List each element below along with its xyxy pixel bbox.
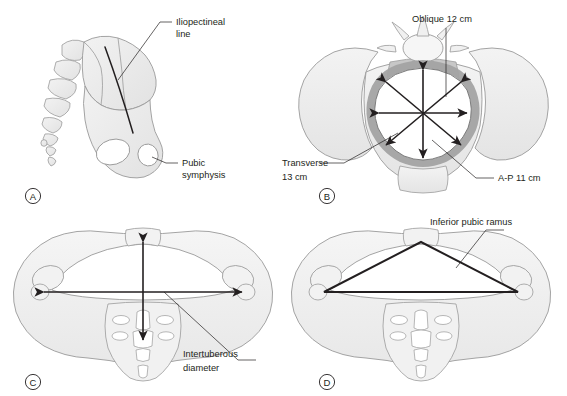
sacrum-coccyx-group-a bbox=[41, 40, 85, 166]
panel-letter-c: C bbox=[30, 377, 37, 388]
label-transverse-2: 13 cm bbox=[282, 172, 308, 182]
label-inferior-pubic-ramus: Inferior pubic ramus bbox=[430, 217, 513, 227]
vertebral-body-b bbox=[403, 34, 443, 62]
pubic-body-b bbox=[398, 166, 448, 193]
panel-d: Inferior pubic ramus D bbox=[280, 200, 567, 396]
label-transverse-1: Transverse bbox=[282, 158, 328, 168]
label-intertuberous-2: diameter bbox=[183, 363, 219, 373]
label-pubic-symphysis-2: symphysis bbox=[182, 170, 226, 180]
pubic-arch-d bbox=[403, 228, 438, 246]
label-ap: A-P 11 cm bbox=[498, 173, 541, 183]
panel-a: Iliopectineal line Pubic symphysis A bbox=[0, 0, 290, 210]
label-iliopectineal-line-1: Iliopectineal bbox=[176, 17, 225, 27]
figure-sheet: Iliopectineal line Pubic symphysis A bbox=[0, 0, 567, 396]
panel-c: Intertuberous diameter C bbox=[0, 200, 290, 396]
label-iliopectineal-line-2: line bbox=[176, 29, 190, 39]
label-intertuberous-1: Intertuberous bbox=[183, 349, 238, 359]
panel-b: Oblique 12 cm Transverse 13 cm A-P 11 cm… bbox=[280, 0, 567, 210]
label-pubic-symphysis-1: Pubic bbox=[182, 158, 206, 168]
label-oblique: Oblique 12 cm bbox=[412, 14, 472, 24]
panel-letter-d: D bbox=[324, 377, 331, 388]
